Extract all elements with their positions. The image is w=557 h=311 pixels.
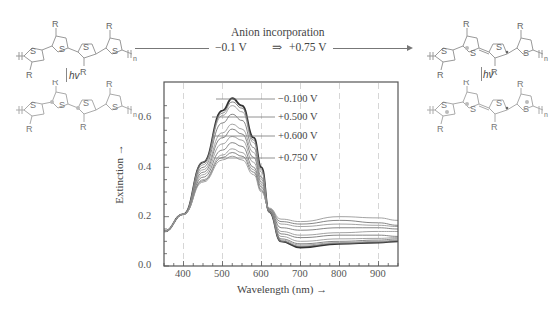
x-tick-label: 700	[292, 268, 308, 279]
x-tick-label: 600	[253, 268, 269, 279]
y-tick-label: 0.6	[138, 111, 151, 122]
x-tick-label: 500	[214, 268, 230, 279]
y-tick-label: 0.0	[138, 259, 151, 270]
annotation-label: −0.100 V	[278, 93, 318, 104]
annotation-label: +0.750 V	[278, 152, 318, 163]
y-tick-label: 0.4	[138, 161, 151, 172]
annotation-label: +0.600 V	[278, 130, 318, 141]
x-axis-label: Wavelength (nm) →	[237, 283, 327, 295]
x-tick-label: 400	[175, 268, 191, 279]
y-tick-label: 0.2	[138, 210, 151, 221]
y-axis-label: Extinction →	[113, 139, 125, 209]
x-tick-label: 800	[331, 268, 347, 279]
annotation-label: +0.500 V	[278, 111, 318, 122]
x-tick-label: 900	[370, 268, 386, 279]
